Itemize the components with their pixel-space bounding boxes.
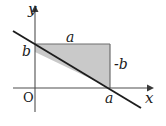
right-segment-label: -b — [114, 57, 128, 71]
x-axis-label: x — [145, 91, 153, 106]
origin-label: O — [23, 91, 34, 104]
x-intercept-label: a — [105, 91, 113, 105]
top-segment-label: a — [66, 30, 74, 44]
y-intercept-label: b — [22, 44, 31, 58]
math-figure: y x O b a a -b — [0, 0, 166, 126]
figure-canvas — [0, 0, 166, 126]
y-axis-label: y — [28, 2, 36, 17]
